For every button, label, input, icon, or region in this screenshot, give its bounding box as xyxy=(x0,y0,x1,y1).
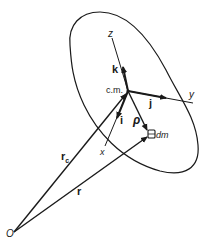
origin-label: O xyxy=(6,228,14,239)
i-label: i xyxy=(120,114,123,126)
center-of-mass-point xyxy=(127,90,130,93)
z-axis-label: z xyxy=(107,28,113,39)
dm-label: dm xyxy=(156,130,169,140)
r-label: r xyxy=(77,185,82,197)
mass-element-icon xyxy=(148,130,155,138)
j-unit-vector xyxy=(128,91,166,98)
cm-label: c.m. xyxy=(106,85,123,95)
k-unit-vector xyxy=(123,67,128,91)
rho-label: ρ xyxy=(132,113,140,127)
j-label: j xyxy=(148,97,152,109)
x-axis-label: x xyxy=(99,147,105,157)
k-label: k xyxy=(112,63,119,75)
rc-vector xyxy=(14,94,126,232)
rc-label: rc xyxy=(61,150,69,164)
y-axis-label: y xyxy=(188,89,195,100)
diagram-canvas: z k c.m. j y i x ρ dm rc r O xyxy=(0,0,205,244)
